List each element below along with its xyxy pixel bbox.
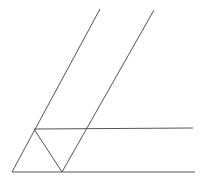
figure-canvas xyxy=(0,0,202,181)
left-transversal-line xyxy=(12,9,100,172)
v-left-arm-line xyxy=(34,129,62,172)
right-transversal-line xyxy=(62,10,154,172)
line-figure-svg xyxy=(0,0,202,181)
upper-horizontal-line xyxy=(34,128,193,129)
